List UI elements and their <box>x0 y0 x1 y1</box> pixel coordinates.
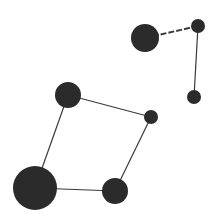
node-n7 <box>102 178 128 204</box>
edge-n2-n3 <box>194 26 198 97</box>
edges-layer <box>35 26 198 191</box>
node-n1 <box>131 24 159 52</box>
node-n5 <box>144 110 158 124</box>
network-graph <box>0 0 220 222</box>
node-n2 <box>191 19 205 33</box>
node-n4 <box>55 82 81 108</box>
node-n6 <box>13 166 57 210</box>
node-n3 <box>187 90 201 104</box>
nodes-layer <box>13 19 205 210</box>
